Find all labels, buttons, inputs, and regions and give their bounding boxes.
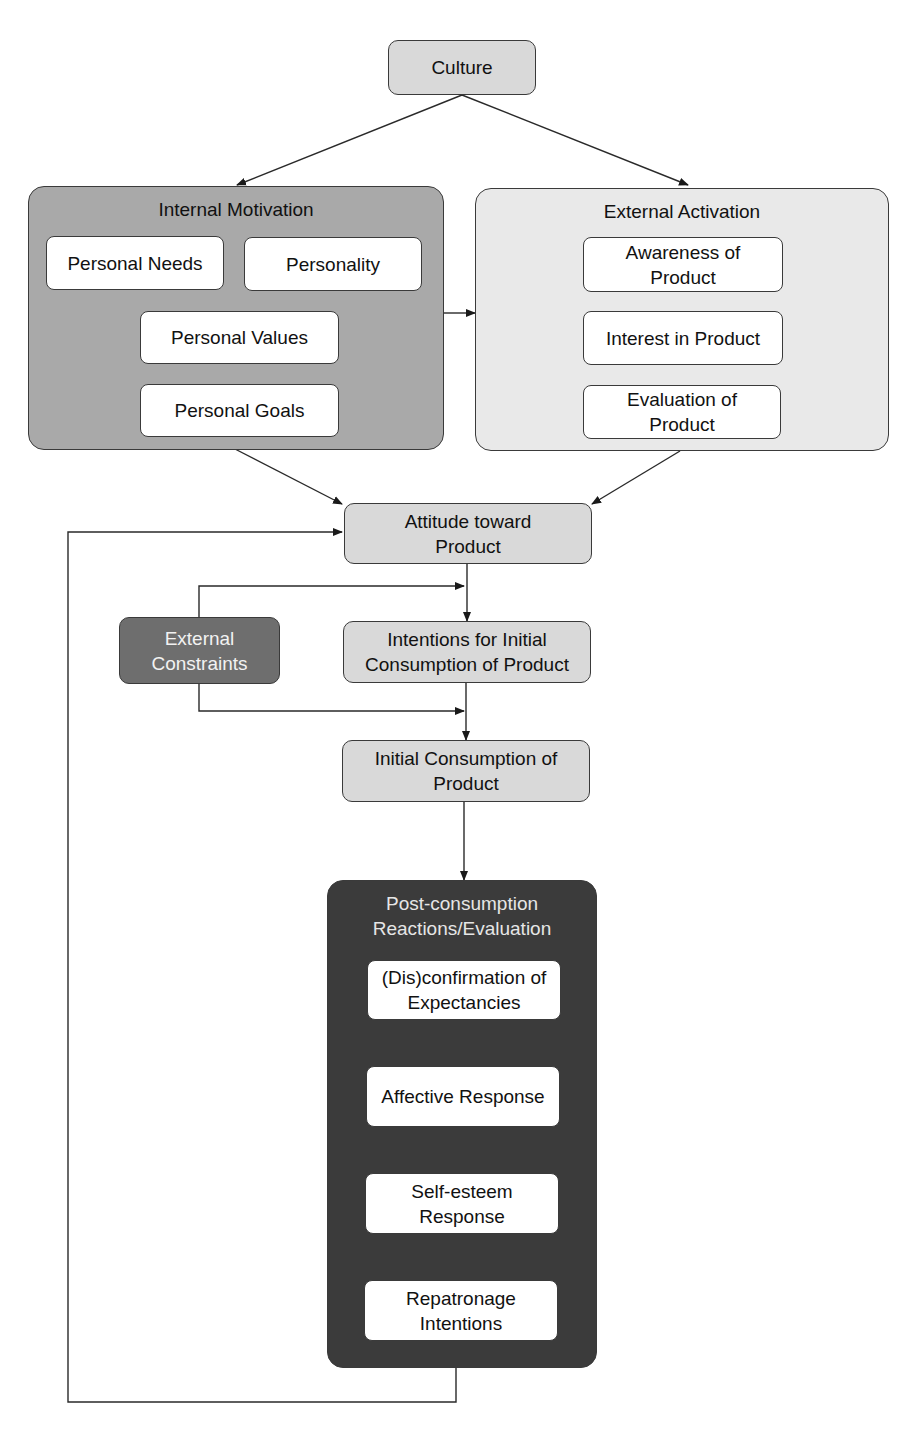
external-constraints-label: External Constraints	[140, 626, 259, 676]
internal-motivation-title: Internal Motivation	[29, 197, 443, 222]
interest-label: Interest in Product	[606, 326, 760, 351]
evaluation-node: Evaluation of Product	[583, 385, 781, 439]
attitude-node: Attitude toward Product	[344, 503, 592, 564]
personal-goals-node: Personal Goals	[140, 384, 339, 437]
intentions-node: Intentions for Initial Consumption of Pr…	[343, 621, 591, 683]
personal-needs-label: Personal Needs	[67, 251, 202, 276]
intentions-label: Intentions for Initial Consumption of Pr…	[348, 627, 586, 677]
initial-consumption-label: Initial Consumption of Product	[357, 746, 575, 796]
awareness-label: Awareness of Product	[604, 240, 762, 290]
external-activation-title: External Activation	[476, 199, 888, 224]
repatronage-label: Repatronage Intentions	[395, 1286, 527, 1336]
culture-node: Culture	[388, 40, 536, 95]
post-consumption-title: Post-consumption Reactions/Evaluation	[328, 891, 596, 941]
repatronage-node: Repatronage Intentions	[364, 1280, 558, 1341]
initial-consumption-node: Initial Consumption of Product	[342, 740, 590, 802]
personality-label: Personality	[286, 252, 380, 277]
culture-label: Culture	[431, 55, 492, 80]
evaluation-label: Evaluation of Product	[604, 387, 760, 437]
interest-node: Interest in Product	[583, 311, 783, 365]
attitude-label: Attitude toward Product	[385, 509, 551, 559]
personal-values-label: Personal Values	[171, 325, 308, 350]
personal-values-node: Personal Values	[140, 311, 339, 364]
personality-node: Personality	[244, 237, 422, 291]
awareness-node: Awareness of Product	[583, 237, 783, 292]
affective-response-node: Affective Response	[366, 1066, 560, 1127]
affective-response-label: Affective Response	[381, 1084, 544, 1109]
self-esteem-node: Self-esteem Response	[365, 1173, 559, 1234]
personal-needs-node: Personal Needs	[46, 236, 224, 290]
personal-goals-label: Personal Goals	[175, 398, 305, 423]
disconfirmation-node: (Dis)confirmation of Expectancies	[367, 960, 561, 1020]
self-esteem-label: Self-esteem Response	[396, 1179, 528, 1229]
disconfirmation-label: (Dis)confirmation of Expectancies	[376, 965, 552, 1015]
external-constraints-node: External Constraints	[119, 617, 280, 684]
